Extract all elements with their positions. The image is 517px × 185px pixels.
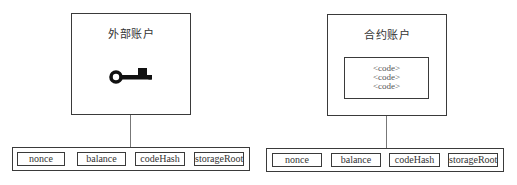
- code-line: <code>: [345, 82, 428, 91]
- external-account-title: 外部账户: [72, 25, 190, 41]
- key-icon: [109, 66, 155, 86]
- contract-account-fields: nonce balance codeHash storageRoot: [266, 148, 504, 172]
- external-account-box: 外部账户: [71, 13, 191, 115]
- field-nonce: nonce: [17, 152, 65, 166]
- field-storageroot: storageRoot: [194, 152, 244, 166]
- contract-account-title: 合约账户: [328, 26, 446, 42]
- field-storageroot: storageRoot: [448, 153, 498, 167]
- field-balance: balance: [77, 152, 126, 166]
- contract-account-box: 合约账户 <code> <code> <code>: [327, 14, 447, 116]
- field-balance: balance: [331, 153, 381, 167]
- code-box: <code> <code> <code>: [344, 57, 429, 99]
- field-nonce: nonce: [272, 153, 322, 167]
- field-codehash: codeHash: [135, 152, 185, 166]
- external-account-connector: [130, 115, 131, 147]
- contract-account-connector: [386, 116, 387, 148]
- external-account-fields: nonce balance codeHash storageRoot: [12, 147, 250, 171]
- field-codehash: codeHash: [389, 153, 440, 167]
